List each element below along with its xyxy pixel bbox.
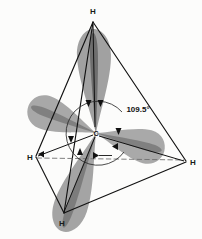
tetrahedral-orbital-svg: C H H H H 109.5° [0, 0, 202, 239]
atom-label-hydrogen-left: H [27, 153, 33, 162]
atom-label-hydrogen-bottom: H [59, 219, 65, 228]
hidden-edge-left-to-right [37, 158, 184, 160]
orbital-diagram-figure: C H H H H 109.5° [0, 0, 202, 239]
arrowhead-bottom [77, 148, 83, 155]
bond-angle-label: 109.5° [126, 105, 149, 114]
atom-label-carbon: C [93, 130, 98, 137]
arrowhead-left-upper [68, 136, 74, 143]
edge-left-to-bottom [36, 157, 64, 213]
orbital-lobe-bottom [46, 127, 112, 236]
arrowhead-arc-pointer [93, 152, 99, 159]
arrowhead-left-lower [38, 151, 44, 158]
atom-label-hydrogen-top: H [90, 7, 96, 16]
atom-label-hydrogen-right: H [190, 158, 196, 167]
